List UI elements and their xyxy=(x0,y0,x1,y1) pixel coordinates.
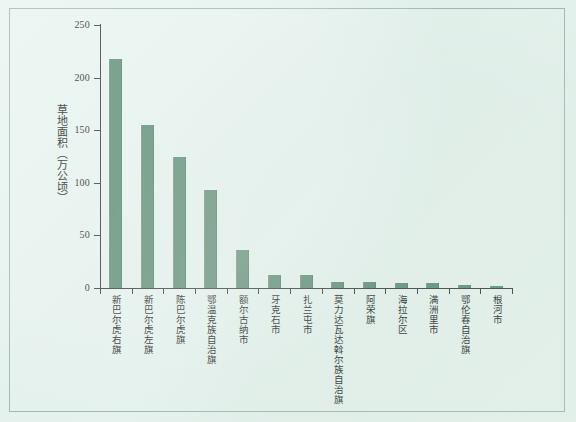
x-tick-mark xyxy=(195,288,196,294)
bar[interactable] xyxy=(458,285,471,288)
y-tick-label: 150 xyxy=(62,124,90,135)
x-axis-category-label: 额尔古纳市 xyxy=(238,295,249,345)
x-tick-mark xyxy=(100,288,101,294)
bar[interactable] xyxy=(331,282,344,288)
bar[interactable] xyxy=(236,250,249,288)
x-axis-category-label: 根河市 xyxy=(491,295,502,325)
bar[interactable] xyxy=(426,283,439,288)
x-axis-category-label: 新巴尔虎右旗 xyxy=(111,295,122,355)
x-tick-mark xyxy=(227,288,228,294)
x-axis-category-label: 牙克石市 xyxy=(269,295,280,335)
x-axis-category-label: 新巴尔虎左旗 xyxy=(143,295,154,355)
x-tick-mark xyxy=(132,288,133,294)
bar[interactable] xyxy=(109,59,122,288)
x-axis-category-label: 鄂温克族自治旗 xyxy=(206,295,217,365)
x-axis-category-label: 陈巴尔虎旗 xyxy=(174,295,185,345)
plot-area xyxy=(100,25,512,288)
bar[interactable] xyxy=(268,275,281,288)
bar[interactable] xyxy=(300,275,313,288)
bar[interactable] xyxy=(173,157,186,289)
x-tick-mark xyxy=(322,288,323,294)
bar[interactable] xyxy=(363,282,376,288)
y-tick-label: 50 xyxy=(62,229,90,240)
x-tick-mark xyxy=(512,288,513,294)
x-tick-mark xyxy=(290,288,291,294)
bar[interactable] xyxy=(490,286,503,288)
bar-chart-figure: 草地面积（万公顷） 050100150200250 新巴尔虎右旗新巴尔虎左旗陈巴… xyxy=(0,0,576,422)
x-tick-mark xyxy=(163,288,164,294)
bar[interactable] xyxy=(395,283,408,288)
y-axis-title: 草地面积（万公顷） xyxy=(52,104,68,203)
x-axis-line xyxy=(100,288,512,289)
x-axis-category-label: 鄂伦春自治旗 xyxy=(459,295,470,355)
y-tick-label: 250 xyxy=(62,19,90,30)
bar[interactable] xyxy=(141,125,154,288)
x-axis-category-label: 阿荣旗 xyxy=(364,295,375,325)
x-tick-mark xyxy=(449,288,450,294)
x-tick-mark xyxy=(417,288,418,294)
x-tick-mark xyxy=(385,288,386,294)
x-axis-category-label: 扎兰屯市 xyxy=(301,295,312,335)
x-axis-category-label: 海拉尔区 xyxy=(396,295,407,335)
y-tick-label: 100 xyxy=(62,177,90,188)
x-axis-category-label: 莫力达瓦达斡尔族自治旗 xyxy=(333,295,344,405)
x-tick-mark xyxy=(354,288,355,294)
bar[interactable] xyxy=(204,190,217,288)
y-tick-label: 0 xyxy=(62,282,90,293)
x-tick-mark xyxy=(480,288,481,294)
x-tick-mark xyxy=(258,288,259,294)
x-axis-category-label: 满洲里市 xyxy=(428,295,439,335)
y-tick-label: 200 xyxy=(62,72,90,83)
